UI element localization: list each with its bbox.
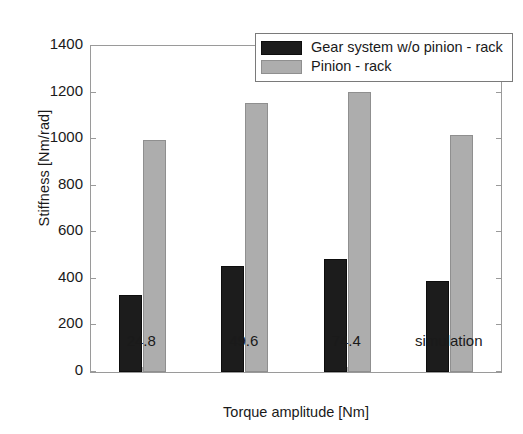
y-tick-mark [496, 278, 501, 279]
y-tick-mark [496, 324, 501, 325]
y-tick-label: 1000 [50, 128, 83, 145]
y-tick-label: 1200 [50, 82, 83, 99]
y-tick-label: 800 [58, 175, 83, 192]
x-tick-label: simulation [415, 332, 483, 349]
y-tick-label: 1400 [50, 35, 83, 52]
y-tick-label: 400 [58, 268, 83, 285]
legend-label: Gear system w/o pinion - rack [311, 40, 503, 55]
bar [348, 92, 371, 372]
legend-item: Pinion - rack [261, 57, 507, 76]
legend-label: Pinion - rack [311, 59, 392, 74]
y-tick-mark [91, 45, 96, 46]
y-tick-mark [496, 185, 501, 186]
bar [426, 281, 449, 373]
bar [324, 259, 347, 372]
legend-item: Gear system w/o pinion - rack [261, 38, 507, 57]
y-tick-mark [496, 371, 501, 372]
y-tick-mark [91, 231, 96, 232]
y-tick-mark [91, 92, 96, 93]
bar-chart-figure: Stiffness [Nm/rad] 020040060080010001200… [0, 0, 523, 434]
bar [221, 266, 244, 372]
x-tick-label: 24.8 [127, 332, 156, 349]
legend: Gear system w/o pinion - rack Pinion - r… [255, 33, 513, 82]
y-tick-mark [91, 185, 96, 186]
x-tick-label: 49.6 [229, 332, 258, 349]
legend-swatch-icon [261, 41, 302, 55]
y-tick-mark [496, 92, 501, 93]
y-tick-mark [91, 324, 96, 325]
y-tick-mark [496, 231, 501, 232]
y-tick-mark [91, 371, 96, 372]
y-tick-label: 200 [58, 314, 83, 331]
y-tick-label: 600 [58, 221, 83, 238]
plot-area: 0200400600800100012001400 [90, 45, 502, 373]
x-axis-title: Torque amplitude [Nm] [90, 404, 502, 420]
y-tick-mark [496, 138, 501, 139]
y-tick-mark [91, 278, 96, 279]
y-tick-mark [91, 138, 96, 139]
legend-swatch-icon [261, 60, 302, 74]
x-tick-label: 74.4 [332, 332, 361, 349]
y-tick-label: 0 [75, 361, 83, 378]
